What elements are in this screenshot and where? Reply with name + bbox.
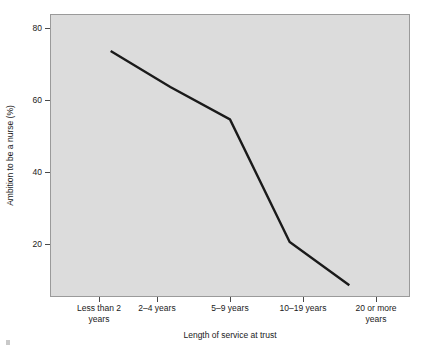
- y-axis-tick-label: 40: [33, 168, 45, 177]
- x-axis: Less than 2 years 2–4 years 5–9 years 10…: [0, 297, 424, 350]
- x-axis-tick-label-line: 5–9 years: [211, 303, 248, 313]
- y-axis-tick-label: 60: [33, 96, 45, 105]
- x-axis-tick-label: 10–19 years: [263, 303, 343, 314]
- y-axis-title: Ambition to be a nurse (%): [3, 14, 17, 297]
- x-axis-tick-label-line: 2–4 years: [138, 303, 175, 313]
- x-axis-tick-label: 5–9 years: [190, 303, 270, 314]
- x-axis-tick-label-line: years: [366, 314, 387, 324]
- plot-area: [50, 14, 410, 297]
- x-axis-tick-mark: [157, 297, 158, 302]
- x-axis-tick-label-line: 20 or more: [355, 303, 396, 313]
- x-axis-tick-mark: [303, 297, 304, 302]
- y-axis-tick-label: 20: [33, 240, 45, 249]
- data-line-ambition: [111, 51, 350, 285]
- x-axis-tick-label: 2–4 years: [117, 303, 197, 314]
- x-axis-tick-mark: [99, 297, 100, 302]
- corner-artifact: [6, 340, 10, 345]
- x-axis-tick-mark: [376, 297, 377, 302]
- chart-figure: Ambition to be a nurse (%) 80 60 40 20 L…: [0, 0, 424, 350]
- y-axis-tick-label: 80: [33, 24, 45, 33]
- line-series-svg: [51, 15, 409, 296]
- x-axis-tick-label-line: Less than 2: [77, 303, 121, 313]
- x-axis-tick-label: 20 or more years: [336, 303, 416, 324]
- x-axis-tick-label-line: years: [89, 314, 110, 324]
- x-axis-tick-mark: [230, 297, 231, 302]
- x-axis-tick-label-line: 10–19 years: [280, 303, 327, 313]
- x-axis-title: Length of service at trust: [50, 330, 410, 341]
